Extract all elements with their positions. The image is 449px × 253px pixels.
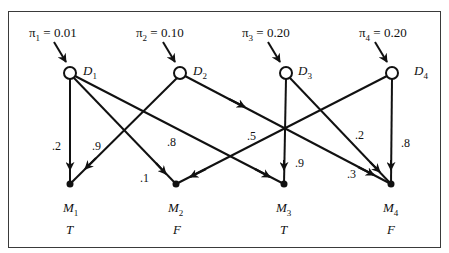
value-m4: F bbox=[387, 223, 395, 236]
prior-label-d2: π2 = 0.10 bbox=[136, 26, 184, 43]
weight-d3-m4: .2 bbox=[355, 129, 364, 141]
label-d3: D3 bbox=[298, 64, 312, 81]
value-m2: F bbox=[173, 223, 181, 236]
node-d4 bbox=[386, 67, 398, 79]
value-m3: T bbox=[280, 223, 287, 236]
weight-d2-m1: .9 bbox=[92, 140, 101, 152]
weight-d4-m4: .8 bbox=[401, 137, 410, 149]
label-d2: D2 bbox=[193, 64, 207, 81]
value-m1: T bbox=[66, 223, 73, 236]
node-m2 bbox=[173, 181, 180, 188]
node-d3 bbox=[280, 67, 292, 79]
prior-label-d1: π1 = 0.01 bbox=[29, 26, 77, 43]
label-d1: D1 bbox=[83, 64, 97, 81]
node-m3 bbox=[281, 181, 288, 188]
weight-d1-m1: .2 bbox=[52, 140, 61, 152]
prior-arrow-d3 bbox=[268, 42, 280, 62]
node-m4 bbox=[388, 181, 395, 188]
prior-label-d4: π4 = 0.20 bbox=[359, 26, 407, 43]
node-d1 bbox=[64, 67, 76, 79]
node-m1 bbox=[67, 181, 74, 188]
prior-label-d3: π3 = 0.20 bbox=[242, 26, 290, 43]
label-m3: M3 bbox=[276, 201, 291, 218]
weight-d1-m2: .1 bbox=[140, 172, 149, 184]
weight-d4-m2: .5 bbox=[247, 130, 256, 142]
label-m4: M4 bbox=[383, 201, 398, 218]
label-m1: M1 bbox=[63, 201, 78, 218]
prior-arrow-d2 bbox=[163, 42, 175, 62]
prior-arrow-d1 bbox=[54, 42, 66, 62]
weight-d1-m3: .8 bbox=[167, 136, 176, 148]
label-m2: M2 bbox=[168, 201, 183, 218]
label-d4: D4 bbox=[414, 64, 428, 81]
weight-d2-m4: .3 bbox=[347, 168, 356, 180]
weight-d3-m3: .9 bbox=[295, 157, 304, 169]
prior-arrow-d4 bbox=[375, 42, 387, 62]
node-d2 bbox=[174, 67, 186, 79]
